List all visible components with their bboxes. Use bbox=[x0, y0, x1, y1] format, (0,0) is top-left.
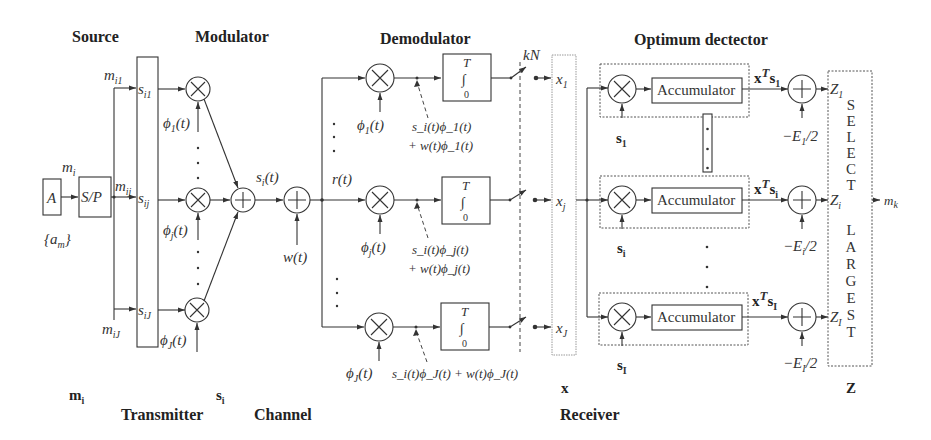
select-largest-letter: T bbox=[846, 177, 855, 193]
select-largest-letter: L bbox=[846, 129, 855, 145]
svg-text:T: T bbox=[463, 55, 471, 70]
xts-I-label: xTsI bbox=[752, 288, 777, 312]
demod-branch-j: ϕj(t) s_i(t)ϕ_j(t) + w(t)ϕ_j(t) T ∫ 0 xj bbox=[322, 177, 566, 276]
select-largest-letter: G bbox=[846, 273, 857, 289]
demod-signal-j-line2: + w(t)ϕ_j(t) bbox=[408, 261, 470, 276]
sampler-label: kN bbox=[523, 47, 541, 63]
source-section: A S/P mi {am} mi1 mij miJ bbox=[43, 67, 136, 340]
xts-1-label: xTs1 bbox=[754, 65, 780, 89]
select-largest-letter: C bbox=[846, 161, 856, 177]
title-source: Source bbox=[72, 28, 119, 45]
ellipsis-box bbox=[703, 114, 712, 172]
title-demodulator: Demodulator bbox=[380, 30, 471, 47]
demod-branch-J: ϕJ(t) s_i(t)ϕ_J(t) + w(t)ϕ_J(t) T ∫ 0 xJ bbox=[322, 303, 568, 384]
transmitter-vector: si1 sij siJ bbox=[137, 57, 158, 347]
label-transmitter: Transmitter bbox=[121, 406, 203, 423]
symbol-source-label: A bbox=[46, 190, 57, 206]
bias-1-label: −E1/2 bbox=[782, 128, 818, 147]
detector-branch-i: si Accumulator xTsi −Ei/2 Zi bbox=[587, 176, 841, 259]
svg-text:0: 0 bbox=[463, 212, 468, 223]
optimum-detector-section: s1 Accumulator xTs1 −E1/2 Z1 si bbox=[576, 64, 898, 376]
demod-phi-j-label: ϕj(t) bbox=[361, 239, 386, 258]
bias-I-label: −EI/2 bbox=[783, 355, 818, 374]
accumulator-i-label: Accumulator bbox=[657, 192, 735, 208]
modulator-section: ϕ1(t) ϕj(t) ϕJ(t) si(t) bbox=[158, 77, 279, 352]
select-largest-letter: R bbox=[846, 256, 856, 272]
svg-text:0: 0 bbox=[462, 338, 467, 349]
bottom-z-label: Z bbox=[846, 380, 856, 396]
m-i1-label: mi1 bbox=[104, 67, 123, 86]
si-t-label: si(t) bbox=[256, 169, 279, 188]
m-ij-label: mij bbox=[115, 178, 132, 197]
m-iJ-label: miJ bbox=[102, 321, 121, 340]
select-largest-letter: S bbox=[847, 97, 855, 113]
z-1-label: Z1 bbox=[830, 81, 843, 100]
phi-J-label: ϕJ(t) bbox=[160, 332, 186, 351]
bottom-si-label: si bbox=[216, 387, 225, 406]
demod-signal-j-line1: s_i(t)ϕ_j(t) bbox=[412, 242, 469, 257]
serial-to-parallel-label: S/P bbox=[81, 189, 102, 205]
received-signal-label: r(t) bbox=[332, 171, 352, 188]
label-channel: Channel bbox=[254, 406, 312, 423]
x-J-label: xJ bbox=[555, 320, 568, 339]
svg-text:T: T bbox=[461, 304, 469, 319]
z-I-label: ZI bbox=[830, 309, 842, 328]
accumulator-I-label: Accumulator bbox=[657, 309, 735, 325]
phi-j-label: ϕj(t) bbox=[163, 222, 188, 241]
demod-branch-1: ϕ1(t) s_i(t)ϕ_1(t) + w(t)ϕ_1(t) T ∫ 0 x1 bbox=[322, 54, 568, 153]
bottom-x-label: x bbox=[561, 380, 569, 396]
s-I-vector-label: sI bbox=[617, 357, 627, 376]
x-1-label: x1 bbox=[555, 71, 568, 90]
demod-phi-J-label: ϕJ(t) bbox=[346, 365, 372, 384]
output-mk-label: mk bbox=[884, 193, 898, 210]
select-largest-letter: E bbox=[846, 290, 855, 306]
bottom-mi-label: mi bbox=[69, 387, 85, 406]
select-largest-letter: L bbox=[846, 222, 855, 238]
communication-system-diagram: Source Modulator Demodulator Optimum dec… bbox=[0, 0, 931, 440]
demod-phi-1-label: ϕ1(t) bbox=[357, 117, 384, 136]
svg-text:T: T bbox=[462, 178, 470, 193]
demod-signal-J: s_i(t)ϕ_J(t) + w(t)ϕ_J(t) bbox=[392, 366, 518, 381]
xts-i-label: xTsi bbox=[754, 176, 778, 200]
select-largest-letter: S bbox=[847, 307, 855, 323]
select-largest-letter: A bbox=[846, 239, 857, 255]
demodulator-section: ϕ1(t) s_i(t)ϕ_1(t) + w(t)ϕ_1(t) T ∫ 0 x1… bbox=[322, 47, 568, 384]
bias-i-label: −Ei/2 bbox=[783, 238, 817, 257]
svg-text:0: 0 bbox=[464, 89, 469, 100]
detector-branch-I: sI Accumulator xTsI −EI/2 ZI bbox=[587, 288, 842, 376]
channel-section: w(t) r(t) bbox=[255, 171, 352, 266]
select-largest-label: SELECTLARGEST bbox=[846, 97, 857, 340]
title-optimum-detector: Optimum dectector bbox=[634, 31, 768, 49]
label-receiver: Receiver bbox=[560, 406, 620, 423]
demod-signal-1-line2: + w(t)ϕ_1(t) bbox=[408, 138, 473, 153]
z-i-label: Zi bbox=[830, 192, 841, 211]
detector-branch-1: s1 Accumulator xTs1 −E1/2 Z1 bbox=[587, 64, 843, 149]
s-1-vector-label: s1 bbox=[616, 130, 627, 149]
x-j-label: xj bbox=[555, 193, 566, 212]
select-largest-letter: T bbox=[846, 324, 855, 340]
title-modulator: Modulator bbox=[195, 28, 269, 45]
select-largest-letter: E bbox=[846, 113, 855, 129]
mi-label: mi bbox=[62, 159, 76, 178]
noise-label: w(t) bbox=[283, 249, 307, 266]
s-i-vector-label: si bbox=[617, 240, 626, 259]
select-largest-letter: E bbox=[846, 145, 855, 161]
phi-1-label: ϕ1(t) bbox=[163, 115, 190, 134]
demod-signal-1-line1: s_i(t)ϕ_1(t) bbox=[412, 119, 471, 134]
am-set-label: {am} bbox=[44, 231, 71, 250]
accumulator-1-label: Accumulator bbox=[657, 82, 735, 98]
